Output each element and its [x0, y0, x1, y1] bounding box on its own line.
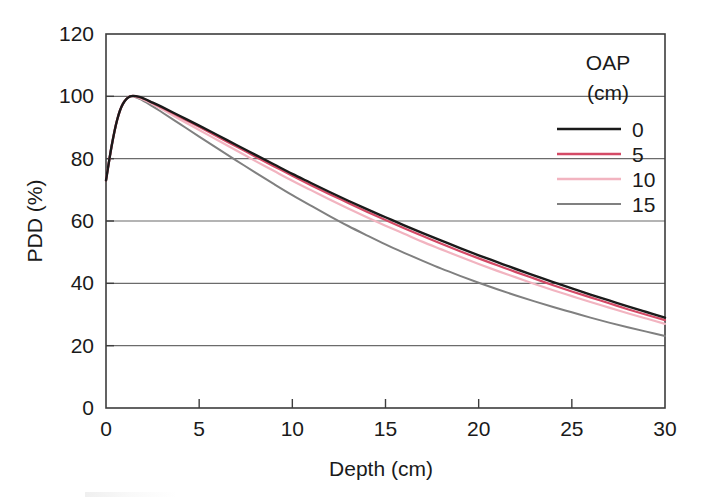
x-tick-label-15: 15	[374, 417, 397, 440]
data-curves	[106, 96, 665, 336]
legend-label-5: 5	[632, 143, 644, 166]
x-tick-label-0: 0	[100, 417, 112, 440]
y-axis-title: PDD (%)	[23, 180, 46, 263]
chart-canvas: 051015202530 020406080100120 OAP(cm)0510…	[0, 0, 707, 502]
pdd-chart: 051015202530 020406080100120 OAP(cm)0510…	[0, 0, 707, 502]
legend-title-unit: (cm)	[587, 81, 629, 104]
x-tick-label-10: 10	[281, 417, 304, 440]
legend-label-15: 15	[632, 193, 655, 216]
legend-title: OAP	[586, 51, 630, 74]
legend: OAP(cm)051015	[557, 51, 655, 216]
y-tick-label-0: 0	[82, 396, 94, 419]
y-tick-label-80: 80	[71, 147, 94, 170]
y-tick-label-60: 60	[71, 209, 94, 232]
y-tick-label-100: 100	[59, 84, 94, 107]
legend-label-0: 0	[632, 118, 644, 141]
x-tick-labels: 051015202530	[100, 417, 677, 440]
x-tick-label-20: 20	[467, 417, 490, 440]
page-artifact	[85, 492, 177, 497]
x-axis-title: Depth (cm)	[329, 457, 433, 480]
tick-marks	[106, 96, 572, 408]
y-tick-label-40: 40	[71, 271, 94, 294]
x-tick-label-5: 5	[193, 417, 205, 440]
x-tick-label-30: 30	[653, 417, 676, 440]
x-tick-label-25: 25	[560, 417, 583, 440]
y-tick-label-120: 120	[59, 22, 94, 45]
legend-label-10: 10	[632, 168, 655, 191]
y-tick-labels: 020406080100120	[59, 22, 94, 419]
y-tick-label-20: 20	[71, 334, 94, 357]
